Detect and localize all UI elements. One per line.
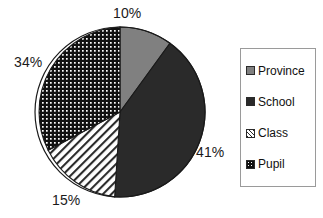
school-swatch-icon bbox=[246, 97, 255, 106]
legend-item-pupil[interactable]: Pupil bbox=[246, 157, 315, 171]
slice-label-province: 10% bbox=[113, 6, 141, 20]
pie-chart-figure: 10% 41% 15% 34% Province School Class Pu… bbox=[0, 0, 323, 218]
legend-item-school[interactable]: School bbox=[246, 95, 315, 109]
legend-item-province[interactable]: Province bbox=[246, 64, 315, 78]
province-swatch-icon bbox=[246, 66, 255, 75]
slice-label-school: 41% bbox=[196, 145, 224, 159]
legend-label-school: School bbox=[258, 96, 295, 108]
slice-label-pupil: 34% bbox=[14, 55, 42, 69]
chart-legend: Province School Class Pupil bbox=[240, 48, 316, 187]
legend-item-list: Province School Class Pupil bbox=[241, 49, 315, 186]
legend-item-class[interactable]: Class bbox=[246, 126, 315, 140]
legend-label-province: Province bbox=[258, 65, 305, 77]
pupil-swatch-icon bbox=[246, 160, 255, 169]
legend-label-class: Class bbox=[258, 127, 288, 139]
class-swatch-icon bbox=[246, 129, 255, 138]
pie-chart-graphic bbox=[33, 25, 207, 199]
pie-svg bbox=[33, 25, 207, 199]
legend-label-pupil: Pupil bbox=[258, 158, 285, 170]
slice-label-class: 15% bbox=[52, 193, 80, 207]
